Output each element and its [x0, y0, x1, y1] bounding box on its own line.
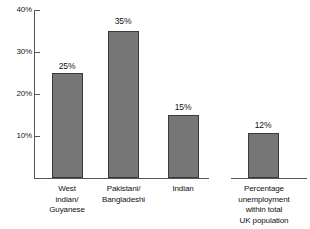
y-tick-10: 10%	[0, 132, 32, 140]
bar-value-label-2: 35%	[103, 17, 143, 26]
bar-indian	[168, 115, 199, 178]
y-tick-mark-10	[34, 136, 40, 137]
y-tick-mark-20	[34, 94, 40, 95]
category-label-line: UK population	[225, 216, 303, 227]
category-label-west-indian-guyanese: West indian/ Guyanese	[37, 184, 97, 216]
category-label-line: Indian	[153, 184, 213, 195]
category-label-line: Guyanese	[37, 205, 97, 216]
y-tick-mark-40	[34, 10, 40, 11]
bar-west-indian-guyanese	[52, 73, 83, 178]
y-tick-mark-30	[34, 52, 40, 53]
x-axis-line-main	[34, 178, 209, 179]
category-label-line: Bangladeshi	[92, 195, 155, 206]
x-axis-line-comparison	[231, 178, 307, 179]
y-tick-label-10: 10%	[2, 132, 32, 140]
category-label-pakistani-bangladeshi: Pakistani/ Bangladeshi	[92, 184, 155, 205]
bar-pakistani-bangladeshi	[108, 31, 139, 178]
y-tick-20: 20%	[0, 90, 32, 98]
bar-value-label-3: 15%	[163, 103, 203, 112]
bar-value-label-4: 12%	[243, 121, 283, 130]
category-label-indian: Indian	[153, 184, 213, 195]
y-tick-40: 40%	[0, 6, 32, 14]
y-tick-label-30: 30%	[2, 48, 32, 56]
bar-value-label-1: 25%	[47, 62, 87, 71]
category-label-line: West	[37, 184, 97, 195]
bar-uk-population-unemployment	[248, 133, 279, 178]
bar-chart: 40% 30% 20% 10% 25% West indian/ Guyanes…	[0, 0, 310, 229]
category-label-line: unemployment	[225, 195, 303, 206]
category-label-line: within total	[225, 205, 303, 216]
y-tick-label-20: 20%	[2, 90, 32, 98]
category-label-line: Pakistani/	[92, 184, 155, 195]
category-label-line: indian/	[37, 195, 97, 206]
category-label-uk-population-unemployment: Percentage unemployment within total UK …	[225, 184, 303, 226]
category-label-line: Percentage	[225, 184, 303, 195]
y-tick-30: 30%	[0, 48, 32, 56]
y-tick-label-40: 40%	[2, 6, 32, 14]
